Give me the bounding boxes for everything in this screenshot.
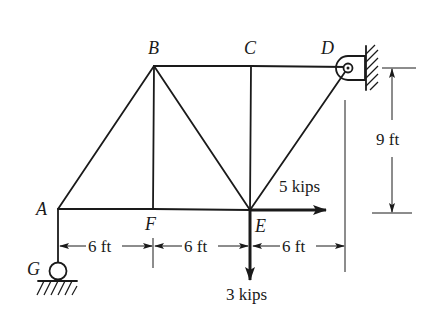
member-ab <box>58 66 154 209</box>
node-label-f: F <box>144 214 157 234</box>
member-cd <box>251 66 348 67</box>
dimension-span-3: 6 ft <box>282 237 305 256</box>
node-label-a: A <box>35 199 48 219</box>
dimension-height: 9 ft <box>376 130 399 149</box>
roller-support-g <box>37 263 77 296</box>
member-fe <box>153 209 250 210</box>
load-3-kips-label: 3 kips <box>226 285 267 304</box>
member-bf <box>153 66 154 209</box>
node-label-b: B <box>148 38 159 58</box>
wall-hatch-icon <box>366 45 378 90</box>
load-5-kips-label: 5 kips <box>279 177 320 196</box>
vertical-dimension: 9 ft <box>372 68 416 213</box>
node-label-g: G <box>27 259 40 279</box>
ground-hatch-icon <box>37 281 77 295</box>
truss-diagram: 5 kips 3 kips 6 ft 6 ft 6 ft 9 ft B C D … <box>0 0 432 328</box>
dimension-span-2: 6 ft <box>184 237 207 256</box>
truss-members <box>58 66 348 263</box>
member-be <box>154 66 250 210</box>
member-ce <box>250 66 251 210</box>
dimension-span-1: 6 ft <box>88 237 111 256</box>
node-label-c: C <box>244 38 257 58</box>
node-label-d: D <box>320 38 334 58</box>
node-label-e: E <box>254 216 266 236</box>
